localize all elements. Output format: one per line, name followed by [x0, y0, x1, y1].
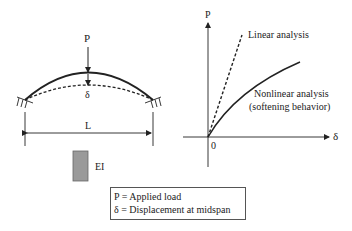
right-support	[145, 97, 161, 108]
left-support	[17, 97, 33, 108]
load-label: P	[84, 33, 90, 44]
nonlinear-analysis-curve	[208, 62, 300, 137]
nonlinear-analysis-sublabel: (softening behavior)	[249, 101, 330, 112]
legend-line-load: P = Applied load	[114, 190, 242, 203]
y-axis-label: P	[205, 9, 211, 20]
cross-section	[73, 151, 88, 181]
x-axis-label: δ	[333, 131, 338, 142]
linear-analysis-label: Linear analysis	[248, 29, 309, 40]
origin-label: 0	[211, 140, 216, 151]
span-label: L	[85, 120, 91, 131]
nonlinear-analysis-label: Nonlinear analysis	[254, 88, 329, 99]
deflection-label: δ	[85, 89, 90, 100]
section-label: EI	[95, 161, 104, 172]
linear-analysis-line	[208, 35, 242, 137]
legend-box: P = Applied load δ = Displacement at mid…	[110, 187, 246, 220]
legend-line-displacement: δ = Displacement at midspan	[114, 203, 242, 216]
